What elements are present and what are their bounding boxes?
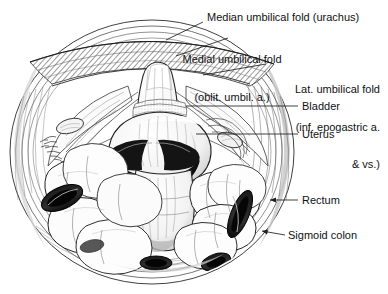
anatomy-figure: Median umbilical fold (urachus) Medial u… (0, 0, 388, 294)
lateral-umbilical-fold-label: Lat. umbilical fold (inf. epogastric a. … (180, 58, 380, 196)
cut-bowel-end-bottom-left (140, 256, 172, 270)
lateral-umbilical-fold-line2: (inf. epogastric a. (180, 121, 380, 134)
rectum-label: Rectum (302, 194, 340, 207)
median-umbilical-fold-label: Median umbilical fold (urachus) (207, 11, 359, 24)
lateral-umbilical-fold-line1: Lat. umbilical fold (180, 83, 380, 96)
bladder-label: Bladder (302, 100, 340, 113)
uterus-label: Uterus (302, 128, 334, 141)
lateral-umbilical-fold-line3: & vs.) (180, 158, 380, 171)
sigmoid-colon-label: Sigmoid colon (288, 229, 357, 242)
